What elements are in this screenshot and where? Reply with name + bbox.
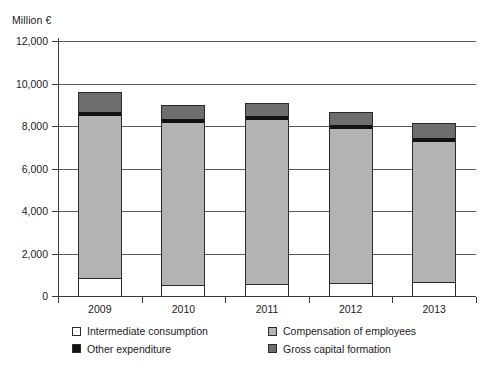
bars-layer	[58, 41, 476, 296]
x-axis-tick	[225, 297, 226, 303]
x-axis-tick-label: 2011	[256, 303, 279, 315]
legend-label: Other expenditure	[87, 344, 171, 355]
bar-segment-compensation-of-employees	[162, 123, 204, 285]
x-axis-tick	[476, 297, 477, 303]
x-axis-tick	[309, 297, 310, 303]
x-axis-tick-label: 2012	[339, 303, 362, 315]
x-axis-tick	[142, 297, 143, 303]
legend: Intermediate consumption Compensation of…	[72, 326, 472, 361]
bar-segment-gross-capital-formation	[79, 93, 121, 112]
bar-segment-gross-capital-formation	[330, 113, 372, 125]
legend-row: Other expenditure Gross capital formatio…	[72, 344, 472, 355]
legend-swatch-icon	[268, 327, 277, 336]
x-axis-spine	[58, 296, 476, 297]
y-axis-unit-label: Million €	[12, 14, 51, 26]
legend-swatch-icon	[268, 344, 277, 353]
legend-swatch-icon	[72, 344, 81, 353]
bar-segment-intermediate-consumption	[246, 284, 288, 296]
stacked-bar-chart: Million € 02,0004,0006,0008,00010,00012,…	[0, 0, 493, 377]
legend-item-gross-capital-formation: Gross capital formation	[268, 344, 391, 355]
y-axis-tick-label: 0	[42, 290, 48, 302]
x-axis-tick	[392, 297, 393, 303]
legend-item-intermediate-consumption: Intermediate consumption	[72, 326, 268, 337]
bar-segment-gross-capital-formation	[162, 106, 204, 119]
y-axis-tick-label: 12,000	[16, 35, 48, 47]
bar-segment-compensation-of-employees	[79, 116, 121, 279]
y-axis-tick-label: 10,000	[16, 78, 48, 90]
y-axis-tick-label: 4,000	[22, 205, 48, 217]
x-axis-tick-label: 2009	[88, 303, 111, 315]
y-axis-tick-label: 6,000	[22, 163, 48, 175]
legend-row: Intermediate consumption Compensation of…	[72, 326, 472, 337]
legend-item-other-expenditure: Other expenditure	[72, 344, 268, 355]
bar-2009	[78, 92, 122, 296]
bar-2010	[161, 105, 205, 296]
bar-segment-compensation-of-employees	[413, 142, 455, 283]
bar-2012	[329, 112, 373, 296]
bar-2013	[412, 123, 456, 296]
legend-swatch-icon	[72, 327, 81, 336]
legend-label: Gross capital formation	[283, 344, 391, 355]
bar-2011	[245, 103, 289, 296]
bar-segment-compensation-of-employees	[246, 120, 288, 284]
legend-label: Intermediate consumption	[87, 326, 208, 337]
y-axis-tick-label: 8,000	[22, 120, 48, 132]
bar-segment-intermediate-consumption	[162, 285, 204, 296]
bar-segment-gross-capital-formation	[413, 124, 455, 138]
legend-label: Compensation of employees	[283, 326, 416, 337]
bar-segment-compensation-of-employees	[330, 129, 372, 282]
y-axis-tick-label: 2,000	[22, 248, 48, 260]
bar-segment-intermediate-consumption	[79, 278, 121, 296]
x-axis-tick	[58, 297, 59, 303]
bar-segment-intermediate-consumption	[330, 283, 372, 296]
bar-segment-gross-capital-formation	[246, 104, 288, 116]
x-axis-tick-label: 2010	[172, 303, 195, 315]
bar-segment-intermediate-consumption	[413, 282, 455, 296]
legend-item-compensation-of-employees: Compensation of employees	[268, 326, 416, 337]
x-axis-tick-label: 2013	[423, 303, 446, 315]
